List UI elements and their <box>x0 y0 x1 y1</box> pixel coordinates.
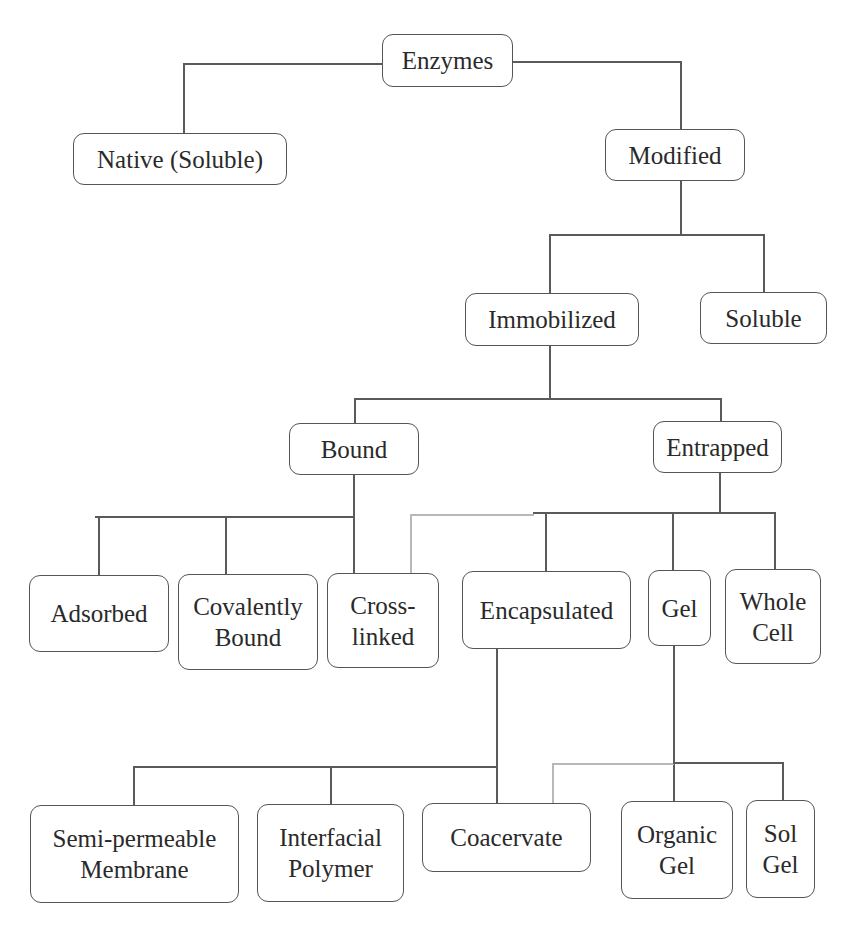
node-immobilized: Immobilized <box>465 293 639 346</box>
connector <box>680 61 682 129</box>
connector <box>782 762 784 800</box>
node-native-soluble: Native (Soluble) <box>73 133 287 185</box>
node-entrapped: Entrapped <box>653 421 782 473</box>
connector <box>549 346 551 399</box>
connector <box>552 763 554 803</box>
node-organic-gel: Organic Gel <box>621 801 733 899</box>
connector <box>719 473 721 513</box>
connector <box>353 475 355 573</box>
connector <box>330 766 332 804</box>
enzyme-classification-diagram: Enzymes Native (Soluble) Modified Immobi… <box>0 0 860 934</box>
connector <box>354 398 722 400</box>
connector <box>133 766 135 805</box>
node-cross-linked: Cross- linked <box>327 573 439 668</box>
connector <box>672 512 674 570</box>
node-sol-gel: Sol Gel <box>746 800 815 898</box>
node-interfacial-polymer: Interfacial Polymer <box>257 804 404 902</box>
connector <box>774 512 776 569</box>
connector <box>673 762 784 764</box>
node-encapsulated: Encapsulated <box>462 571 631 649</box>
connector <box>183 63 185 133</box>
node-adsorbed: Adsorbed <box>29 575 169 652</box>
connector <box>225 516 227 574</box>
connector <box>354 398 356 423</box>
node-gel: Gel <box>648 570 711 646</box>
connector <box>533 512 776 514</box>
connector <box>673 646 675 801</box>
connector <box>680 181 682 235</box>
connector <box>553 763 674 765</box>
node-semi-permeable-membrane: Semi-permeable Membrane <box>30 805 239 903</box>
node-enzymes: Enzymes <box>382 34 513 87</box>
connector <box>763 234 765 292</box>
node-soluble: Soluble <box>700 292 827 344</box>
node-modified: Modified <box>605 129 745 181</box>
connector <box>184 63 382 65</box>
connector <box>98 516 100 575</box>
connector <box>411 514 534 516</box>
connector <box>410 514 412 573</box>
connector <box>133 766 498 768</box>
node-bound: Bound <box>289 423 419 475</box>
node-whole-cell: Whole Cell <box>725 569 821 664</box>
connector <box>513 61 681 63</box>
node-covalently-bound: Covalently Bound <box>178 574 318 670</box>
connector <box>549 234 551 293</box>
connector <box>496 649 498 803</box>
connector <box>545 512 547 571</box>
connector <box>720 398 722 421</box>
connector <box>549 234 765 236</box>
node-coacervate: Coacervate <box>422 803 591 872</box>
